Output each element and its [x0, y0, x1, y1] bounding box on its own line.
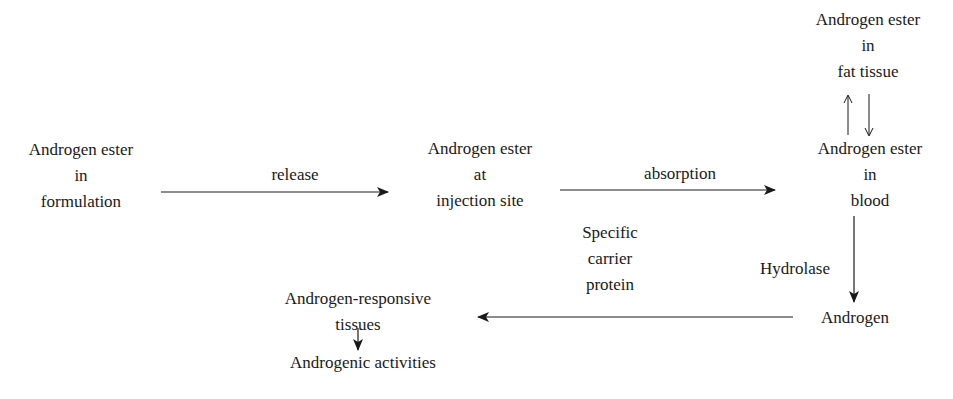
node-line: in	[795, 162, 945, 188]
release-label: release	[245, 162, 345, 188]
node-blood: Androgen ester in blood	[795, 136, 945, 214]
node-line: at	[405, 162, 555, 188]
label-line: protein	[550, 272, 670, 298]
node-line: Androgen ester	[793, 7, 943, 33]
node-responsive-tissues: Androgen-responsive tissues	[248, 286, 468, 338]
carrier-label: Specific carrier protein	[550, 220, 670, 298]
node-line: formulation	[18, 189, 144, 215]
node-line: fat tissue	[793, 59, 943, 85]
hydrolase-label: Hydrolase	[748, 256, 842, 282]
node-line: Androgenic activities	[258, 350, 468, 376]
node-formulation: Androgen ester in formulation	[18, 137, 144, 215]
node-line: in	[18, 163, 144, 189]
absorption-label: absorption	[610, 161, 750, 187]
node-line: injection site	[405, 188, 555, 214]
label-line: carrier	[550, 246, 670, 272]
node-line: blood	[795, 188, 945, 214]
node-line: Androgen	[795, 305, 915, 331]
node-injection-site: Androgen ester at injection site	[405, 136, 555, 214]
node-line: Androgen-responsive	[248, 286, 468, 312]
node-line: Androgen ester	[18, 137, 144, 163]
node-line: Androgen ester	[795, 136, 945, 162]
label-line: Specific	[550, 220, 670, 246]
node-line: Androgen ester	[405, 136, 555, 162]
node-fat-tissue: Androgen ester in fat tissue	[793, 7, 943, 85]
node-androgen: Androgen	[795, 305, 915, 331]
node-androgenic-activities: Androgenic activities	[258, 350, 468, 376]
node-line: in	[793, 33, 943, 59]
node-line: tissues	[248, 312, 468, 338]
